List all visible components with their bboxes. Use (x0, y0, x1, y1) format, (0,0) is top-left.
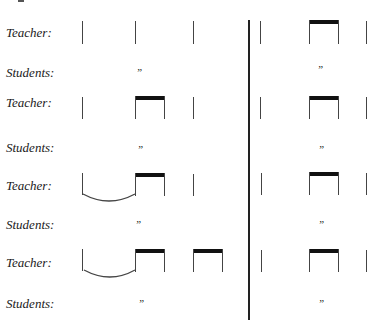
tie-slur-icon (82, 192, 136, 204)
eighth-note-stem (309, 20, 310, 44)
eighth-note-beam (309, 172, 339, 176)
quarter-note-stem (193, 97, 194, 119)
eighth-note-stem (309, 172, 310, 195)
quarter-note-stem (82, 97, 83, 119)
eighth-note-stem (309, 96, 310, 119)
tie-slur-icon (83, 268, 136, 280)
eighth-note-stem (338, 249, 339, 272)
ditto-mark: ” (318, 298, 324, 309)
eighth-note-beam (135, 96, 165, 100)
eighth-note-stem (338, 172, 339, 195)
ditto-mark: ” (138, 298, 144, 309)
eighth-note-beam (135, 249, 165, 253)
eighth-note-stem (164, 96, 165, 119)
ditto-mark: ” (318, 144, 324, 155)
students-label-2: Students: (6, 141, 54, 154)
students-label-3: Students: (6, 218, 54, 231)
quarter-note-stem (193, 174, 194, 196)
eighth-note-stem (222, 249, 223, 272)
quarter-note-stem (260, 21, 261, 44)
eighth-note-stem (135, 96, 136, 119)
eighth-note-stem (338, 20, 339, 44)
quarter-note-stem (260, 97, 261, 119)
teacher-label-1: Teacher: (6, 26, 52, 39)
ditto-mark: ” (317, 64, 323, 75)
quarter-note-stem (366, 173, 367, 195)
quarter-note-stem (193, 21, 194, 44)
measure-divider (248, 20, 250, 320)
quarter-note-stem (366, 21, 367, 44)
quarter-note-stem (261, 173, 262, 195)
eighth-note-stem (309, 249, 310, 272)
teacher-label-3: Teacher: (6, 179, 52, 192)
eighth-note-beam (193, 249, 223, 253)
eighth-note-stem (193, 249, 194, 272)
eighth-note-beam (135, 173, 165, 177)
teacher-label-2: Teacher: (6, 96, 52, 109)
eighth-note-stem (135, 173, 136, 196)
eighth-note-beam (309, 249, 339, 253)
quarter-note-stem (366, 250, 367, 272)
eighth-note-beam (309, 96, 339, 100)
eighth-note-stem (164, 249, 165, 272)
ditto-mark: ” (136, 67, 142, 78)
quarter-note-stem (366, 97, 367, 119)
eighth-note-stem (135, 249, 136, 272)
ditto-mark: ” (135, 219, 141, 230)
quarter-note-stem (261, 250, 262, 272)
ditto-mark: ” (318, 219, 324, 230)
students-label-1: Students: (6, 66, 54, 79)
eighth-note-beam (309, 20, 339, 24)
quarter-note-stem (135, 21, 136, 44)
ditto-mark: ” (137, 144, 143, 155)
students-label-4: Students: (6, 297, 54, 310)
eighth-note-stem (164, 173, 165, 196)
eighth-note-stem (338, 96, 339, 119)
teacher-label-4: Teacher: (6, 256, 52, 269)
page-fragment-mark (18, 0, 24, 2)
quarter-note-stem (82, 21, 83, 44)
